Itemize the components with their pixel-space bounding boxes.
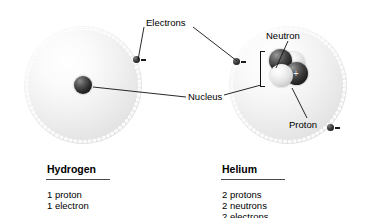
helium-proton-plus-icon-right: + xyxy=(293,69,299,79)
helium-electron-minus-icon-upper-left xyxy=(241,61,246,63)
helium-electron-minus-icon-lower-right xyxy=(335,127,340,129)
hydrogen-electron-dot xyxy=(133,56,140,63)
hydrogen-caption-title: Hydrogen xyxy=(47,163,96,175)
helium-electron-dot-lower-right xyxy=(327,124,334,131)
hydrogen-atom-graphic xyxy=(24,26,142,144)
helium-composition-line-1: 2 protons xyxy=(222,189,262,201)
helium-atom-graphic: + xyxy=(229,26,347,144)
hydrogen-composition-line-1: 1 proton xyxy=(47,189,82,201)
callout-label-electrons: Electrons xyxy=(146,17,186,28)
helium-proton-sphere-front xyxy=(270,64,293,87)
helium-composition-line-3: 2 electrons xyxy=(222,211,268,218)
helium-nucleus-bracket xyxy=(260,51,265,87)
hydrogen-composition-line-2: 1 electron xyxy=(47,200,89,212)
callout-label-neutron: Neutron xyxy=(266,30,300,41)
helium-composition-line-2: 2 neutrons xyxy=(222,200,267,212)
callout-label-proton: Proton xyxy=(289,119,317,130)
hydrogen-caption-underline xyxy=(46,179,110,180)
atom-diagram-figure: + Electrons Nucleus Neutron Proton xyxy=(0,0,370,218)
helium-caption-title: Helium xyxy=(222,163,257,175)
hydrogen-nucleus-sphere xyxy=(74,76,92,94)
helium-electron-dot-upper-left xyxy=(233,58,240,65)
callout-label-nucleus: Nucleus xyxy=(188,91,222,102)
helium-caption-underline xyxy=(221,179,285,180)
hydrogen-electron-minus-icon xyxy=(141,59,146,61)
